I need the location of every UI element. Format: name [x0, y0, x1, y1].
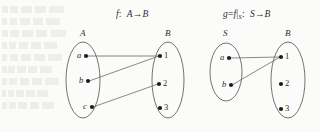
element-label-r-2: 2	[285, 79, 289, 88]
function-label-g: g=f|S: S→B	[223, 10, 271, 21]
function-colon-right: :	[242, 9, 245, 19]
mapping-line-s-a-to-1	[230, 57, 280, 58]
element-label-3: 3	[164, 103, 168, 112]
element-label-a: a	[77, 51, 81, 60]
set-label-B-left: B	[165, 29, 171, 38]
element-label-b: b	[79, 76, 83, 85]
element-label-2: 2	[163, 79, 167, 88]
element-label-s-b: b	[222, 80, 226, 89]
set-label-S: S	[223, 29, 228, 38]
element-dot-a	[84, 54, 88, 58]
element-dot-c	[90, 105, 94, 109]
function-codomain-B: B	[143, 9, 149, 19]
function-label-f: f: A→B	[116, 10, 149, 20]
set-ellipse-S	[210, 43, 242, 101]
arrow-icon-left: →	[133, 9, 143, 19]
element-label-1: 1	[164, 51, 168, 60]
element-dot-s-a	[227, 56, 231, 60]
element-dot-2	[157, 82, 161, 86]
element-dot-r-1	[279, 55, 283, 59]
arrow-icon-right: →	[255, 9, 265, 19]
set-label-A: A	[80, 29, 86, 38]
element-dot-r-2	[279, 82, 283, 86]
element-label-c: c	[83, 102, 87, 111]
mapping-diagram-svg	[0, 0, 320, 132]
mapping-line-s-b-to-1	[232, 57, 280, 85]
element-dot-3	[158, 106, 162, 110]
element-dot-b	[86, 79, 90, 83]
element-dot-1	[158, 54, 162, 58]
figure-canvas: f: A→B g=f|S: S→B A B S B a b c 1 2 3 a …	[0, 0, 320, 132]
element-dot-s-b	[229, 83, 233, 87]
element-dot-r-3	[279, 107, 283, 111]
set-label-B-right: B	[285, 29, 291, 38]
function-codomain-B-right: B	[265, 9, 271, 19]
function-colon-left: :	[119, 9, 122, 19]
element-label-r-3: 3	[285, 104, 289, 113]
element-label-r-1: 1	[285, 52, 289, 61]
mapping-line-c-to-2	[93, 84, 158, 107]
element-label-s-a: a	[220, 53, 224, 62]
